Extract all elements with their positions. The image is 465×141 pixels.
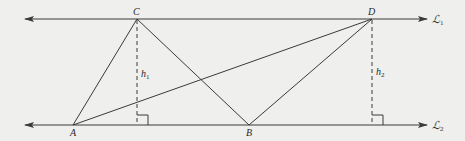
line-label-l2: ℒ2 <box>432 119 444 133</box>
point-label-c: C <box>133 6 140 17</box>
segment-ad <box>73 19 372 125</box>
point-label-a: A <box>69 127 77 138</box>
diagram-canvas: C D A B h1 h2 ℒ1 ℒ2 <box>0 0 465 141</box>
point-label-b: B <box>246 127 252 138</box>
segment-cb <box>137 19 249 125</box>
parallel-lines-triangle-diagram: C D A B h1 h2 ℒ1 ℒ2 <box>0 0 465 141</box>
triangle-segments <box>73 19 372 125</box>
height-label-h2: h2 <box>376 66 385 79</box>
point-label-d: D <box>367 6 376 17</box>
right-angle-markers <box>137 115 383 125</box>
segment-db <box>249 19 372 125</box>
height-lines <box>137 20 372 125</box>
right-angle-marker-d <box>372 115 383 125</box>
height-label-h1: h1 <box>141 68 150 81</box>
segment-ac <box>73 19 137 125</box>
right-angle-marker-c <box>137 115 148 125</box>
line-label-l1: ℒ1 <box>432 13 444 27</box>
